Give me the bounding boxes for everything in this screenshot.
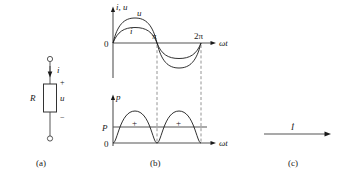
power-y-axis-label: p [115,92,121,102]
phasor-arrowhead [325,132,332,137]
power-x-axis-arrowhead [211,141,217,145]
resistor-body [44,84,57,112]
waveform-x-axis-label: ωt [219,38,228,48]
power-x-axis-label: ωt [219,138,228,148]
waveform-x-axis-arrowhead [211,41,217,45]
caption-c: (c) [288,158,298,168]
terminal-bottom-icon [47,136,52,141]
phasor-diagram: İ (c) [264,122,331,168]
phasor-current-label: İ [290,122,295,132]
circuit-resistor-label: R [29,93,36,103]
terminal-top-icon [47,56,52,61]
current-arrow-icon [48,66,53,78]
power-y-axis-arrowhead [111,95,115,101]
caption-a: (a) [36,158,46,168]
power-sign-marker-1: + [132,118,137,128]
waveform-tick-2pi: 2π [194,31,204,41]
waveform-tick-pi: π [152,31,157,41]
circuit-voltage-label: u [60,93,65,103]
power-chart: p P 0 + + ωt (b) [101,92,228,168]
waveform-chart: i, u 0 u i π 2π ωt [104,2,228,78]
average-power-label: P [101,123,108,133]
power-sign-marker-2: + [176,118,181,128]
waveform-y-axis-label: i, u [116,2,128,12]
waveform-y-axis-arrowhead [111,7,115,13]
power-origin-label: 0 [104,139,109,149]
waveform-origin-label: 0 [104,39,109,49]
polarity-minus-label: − [60,113,65,122]
figure-svg: i R + u − (a) i, u 0 u i π 2π ωt [0,0,351,176]
caption-b: (b) [150,158,161,168]
circuit-current-label: i [57,65,60,75]
figure-root: i R + u − (a) i, u 0 u i π 2π ωt [0,0,351,176]
polarity-plus-label: + [60,78,65,87]
voltage-curve-label: u [137,8,142,18]
circuit-diagram: i R + u − (a) [29,56,65,168]
